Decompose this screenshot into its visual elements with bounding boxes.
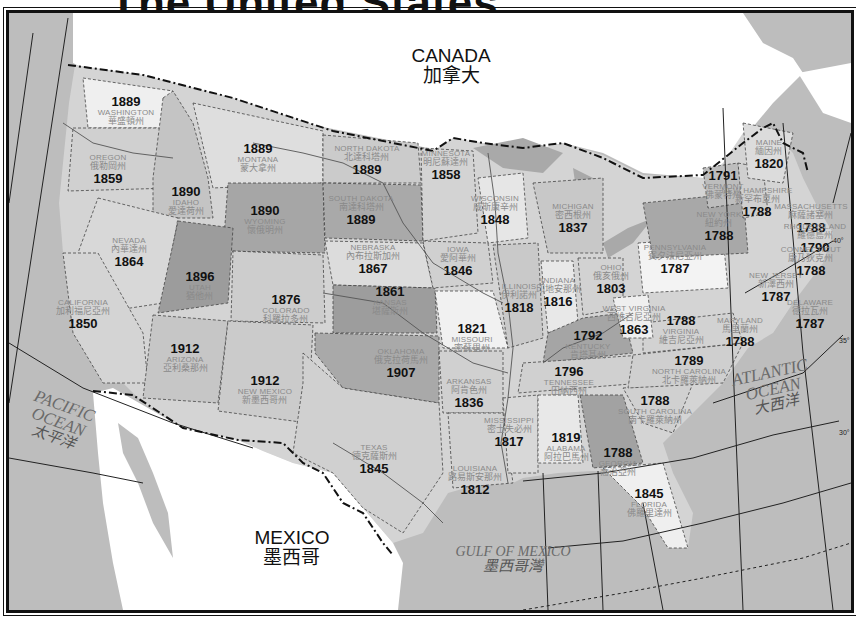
statehood-year: 1836 bbox=[446, 396, 491, 410]
state-label-alabama: 1819ALABAMA阿拉巴馬州 bbox=[544, 431, 589, 462]
state-label-washington: 1889WASHINGTON華盛頓州 bbox=[98, 95, 155, 126]
state-name-zh: 喬治亞州 bbox=[599, 468, 638, 477]
canada-name-zh: 加拿大 bbox=[411, 66, 490, 86]
statehood-year: 1796 bbox=[544, 365, 594, 379]
state-label-north-dakota: NORTH DAKOTA北達科塔州1889 bbox=[334, 145, 399, 176]
state-label-iowa: IOWA愛阿華州1846 bbox=[440, 246, 476, 277]
state-name-zh: 亞利桑那州 bbox=[163, 364, 208, 373]
statehood-year: 1864 bbox=[111, 255, 147, 269]
state-label-oklahoma: OKLAHOMA俄克拉荷馬州1907 bbox=[374, 348, 428, 379]
state-label-california: CALIFORNIA加利福尼亞州1850 bbox=[56, 299, 110, 330]
state-label-maine: MAINE緬因州1820 bbox=[755, 139, 784, 170]
statehood-year: 1787 bbox=[787, 317, 833, 331]
statehood-year: 1821 bbox=[451, 322, 492, 336]
statehood-year: 1788 bbox=[717, 335, 763, 349]
state-label-louisiana: LOUISIANA路易斯安那州1812 bbox=[448, 465, 502, 496]
map-frame: 40° 35° 30° CANADA 加拿大 MEXICO 墨西哥 PACIFI… bbox=[6, 10, 854, 613]
mexico-name-zh: 墨西哥 bbox=[255, 548, 330, 568]
state-label-south-dakota: SOUTH DAKOTA南達科塔州1889 bbox=[329, 195, 394, 226]
state-label-north-carolina: 1789NORTH CAROLINA北卡羅萊納州 bbox=[652, 354, 726, 385]
state-label-arizona: 1912ARIZONA亞利桑那州 bbox=[163, 342, 208, 373]
statehood-year: 1820 bbox=[755, 157, 784, 171]
state-label-michigan: MICHIGAN密西根州1837 bbox=[552, 203, 594, 234]
state-label-wyoming: 1890WYOMING懷俄明州 bbox=[244, 204, 285, 235]
statehood-year: 1788 bbox=[618, 394, 692, 408]
statehood-year: 1863 bbox=[603, 323, 666, 337]
statehood-year: 1848 bbox=[471, 213, 519, 227]
state-label-colorado: 1876COLORADO科羅拉多州 bbox=[262, 293, 309, 324]
state-label-montana: 1889MONTANA蒙大拿州 bbox=[238, 142, 279, 173]
statehood-year: 1812 bbox=[448, 483, 502, 497]
country-label-canada: CANADA 加拿大 bbox=[411, 46, 490, 86]
state-name-zh: 新墨西哥州 bbox=[238, 396, 292, 405]
state-name-zh: 肯塔基州 bbox=[565, 351, 610, 360]
state-name-zh: 科羅拉多州 bbox=[262, 315, 309, 324]
state-label-mississippi: MISSISSIPPI密士失必州1817 bbox=[484, 417, 534, 448]
state-label-missouri: 1821MISSOURI密蘇里州 bbox=[451, 322, 492, 353]
gulf-zh: 墨西哥灣 bbox=[455, 559, 570, 574]
statehood-year: 1818 bbox=[501, 301, 537, 315]
state-name-zh: 愛達荷州 bbox=[168, 207, 204, 216]
latitude-label-30: 30° bbox=[839, 429, 850, 436]
state-name-zh: 密蘇里州 bbox=[451, 344, 492, 353]
statehood-year: 1789 bbox=[652, 354, 726, 368]
state-name-zh: 佛羅里達州 bbox=[627, 509, 672, 518]
statehood-year: 1803 bbox=[593, 282, 629, 296]
state-label-nevada: NEVADA內華達州1864 bbox=[111, 237, 147, 268]
statehood-year: 1837 bbox=[552, 221, 594, 235]
statehood-year: 1788 bbox=[599, 446, 638, 460]
statehood-year: 1845 bbox=[627, 487, 672, 501]
statehood-year: 1846 bbox=[440, 264, 476, 278]
state-label-maryland: MARYLAND馬里蘭州1788 bbox=[717, 317, 763, 348]
state-name-zh: 阿拉巴馬州 bbox=[544, 453, 589, 462]
state-label-tennessee: 1796TENNESSEE田納西州 bbox=[544, 365, 594, 396]
state-label-indiana: INDIANA印地安那州1816 bbox=[536, 277, 581, 308]
state-label-minnesota: MINNESOTA明尼蘇達州1858 bbox=[422, 150, 471, 181]
statehood-year: 1890 bbox=[244, 204, 285, 218]
statehood-year: 1907 bbox=[374, 366, 428, 380]
mexico-name-en: MEXICO bbox=[255, 528, 330, 548]
statehood-year: 1867 bbox=[346, 262, 400, 276]
statehood-year: 1876 bbox=[262, 293, 309, 307]
state-name-zh: 蒙大拿州 bbox=[238, 164, 279, 173]
statehood-year: 1858 bbox=[422, 168, 471, 182]
statehood-year: 1889 bbox=[334, 163, 399, 177]
statehood-year: 1889 bbox=[98, 95, 155, 109]
statehood-year: 1896 bbox=[186, 270, 215, 284]
statehood-year: 1889 bbox=[238, 142, 279, 156]
state-label-delaware: DELAWARE德拉瓦州1787 bbox=[787, 299, 833, 330]
state-label-kansas: 1861KANSAS堪薩斯州 bbox=[372, 285, 408, 316]
state-label-south-carolina: 1788SOUTH CAROLINA南卡羅萊納州 bbox=[618, 394, 692, 425]
statehood-year: 1819 bbox=[544, 431, 589, 445]
ocean-label-gulf: GULF OF MEXICO 墨西哥灣 bbox=[455, 545, 570, 574]
state-label-ohio: OHIO俄亥俄州1803 bbox=[593, 264, 629, 295]
state-label-west-virginia: WEST VIRGINIA西維吉尼亞州1863 bbox=[603, 305, 666, 336]
statehood-year: 1912 bbox=[163, 342, 208, 356]
statehood-year: 1850 bbox=[56, 317, 110, 331]
state-name-zh: 北卡羅萊納州 bbox=[652, 376, 726, 385]
state-name-zh: 維吉尼亞州 bbox=[659, 336, 704, 345]
statehood-year: 1816 bbox=[536, 295, 581, 309]
statehood-year: 1889 bbox=[329, 213, 394, 227]
state-label-illinois: ILLINOIS伊利諾州1818 bbox=[501, 283, 537, 314]
latitude-label-35: 35° bbox=[839, 337, 850, 344]
state-name-zh: 田納西州 bbox=[544, 387, 594, 396]
gulf-line1: GULF OF MEXICO bbox=[455, 545, 570, 559]
statehood-year: 1787 bbox=[644, 262, 707, 276]
state-label-wisconsin: WISCONSIN威斯康辛州1848 bbox=[471, 195, 519, 226]
state-label-nebraska: NEBRASKA內布拉斯加州1867 bbox=[346, 244, 400, 275]
statehood-year: 1817 bbox=[484, 435, 534, 449]
state-name-zh: 堪薩斯州 bbox=[372, 307, 408, 316]
statehood-year: 1791 bbox=[702, 169, 743, 183]
state-label-idaho: 1890IDAHO愛達荷州 bbox=[168, 185, 204, 216]
country-label-mexico: MEXICO 墨西哥 bbox=[255, 528, 330, 568]
state-name-zh: 懷俄明州 bbox=[244, 226, 285, 235]
statehood-year: 1861 bbox=[372, 285, 408, 299]
statehood-year: 1788 bbox=[696, 229, 741, 243]
state-label-georgia: 1788GEORGIA喬治亞州 bbox=[599, 446, 638, 477]
state-label-oregon: OREGON俄勒岡州1859 bbox=[90, 154, 127, 185]
state-label-pennsylvania: PENNSYLVANIA賓夕法尼亞州1787 bbox=[644, 244, 707, 275]
state-label-utah: 1896UTAH猶他州 bbox=[186, 270, 215, 301]
statehood-year: 1890 bbox=[168, 185, 204, 199]
state-name-zh: 華盛頓州 bbox=[98, 117, 155, 126]
